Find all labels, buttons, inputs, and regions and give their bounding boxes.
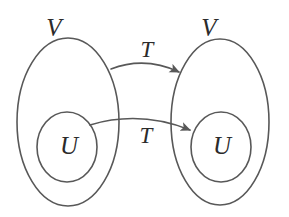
right-outer-set-ellipse [171,39,269,205]
right-outer-set-label: V [201,15,216,40]
left-outer-set-label: V [46,15,61,40]
set-mapping-diagram: V V U U T T [0,0,289,217]
left-inner-set-label: U [60,133,78,158]
upper-map-arrow [111,63,179,72]
upper-map-label: T [141,38,154,61]
right-inner-set-label: U [213,133,231,158]
lower-map-label: T [140,124,153,147]
diagram-canvas [0,0,289,217]
